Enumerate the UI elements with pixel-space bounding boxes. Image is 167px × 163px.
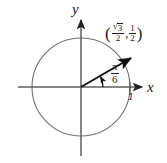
radical-icon: √ [113, 22, 118, 31]
y-coordinate-denominator: 2 [129, 34, 136, 43]
terminal-ray [81, 58, 131, 87]
y-axis-label: y [72, 2, 79, 17]
terminal-point-label: (√32,12) [105, 23, 142, 44]
angle-numerator: π [111, 61, 119, 74]
x-coordinate-denominator: 2 [112, 34, 125, 43]
x-tick-one-label: 1 [128, 91, 134, 102]
x-axis-label: x [147, 80, 154, 95]
close-paren: ) [137, 24, 143, 43]
angle-arc [101, 77, 104, 87]
angle-denominator: 6 [111, 74, 119, 86]
open-paren: ( [105, 24, 111, 43]
x-coordinate-numerator: √3 [112, 23, 125, 34]
angle-fraction: π6 [111, 61, 119, 85]
coordinate-comma: , [125, 26, 128, 40]
unit-circle-figure: y x 1 (√32,12) π6 [0, 0, 167, 163]
x-coordinate-fraction: √32 [112, 23, 125, 44]
y-coordinate-fraction: 12 [129, 24, 136, 44]
sqrt-three: √3 [113, 23, 124, 33]
angle-measure-label: π6 [110, 61, 120, 85]
